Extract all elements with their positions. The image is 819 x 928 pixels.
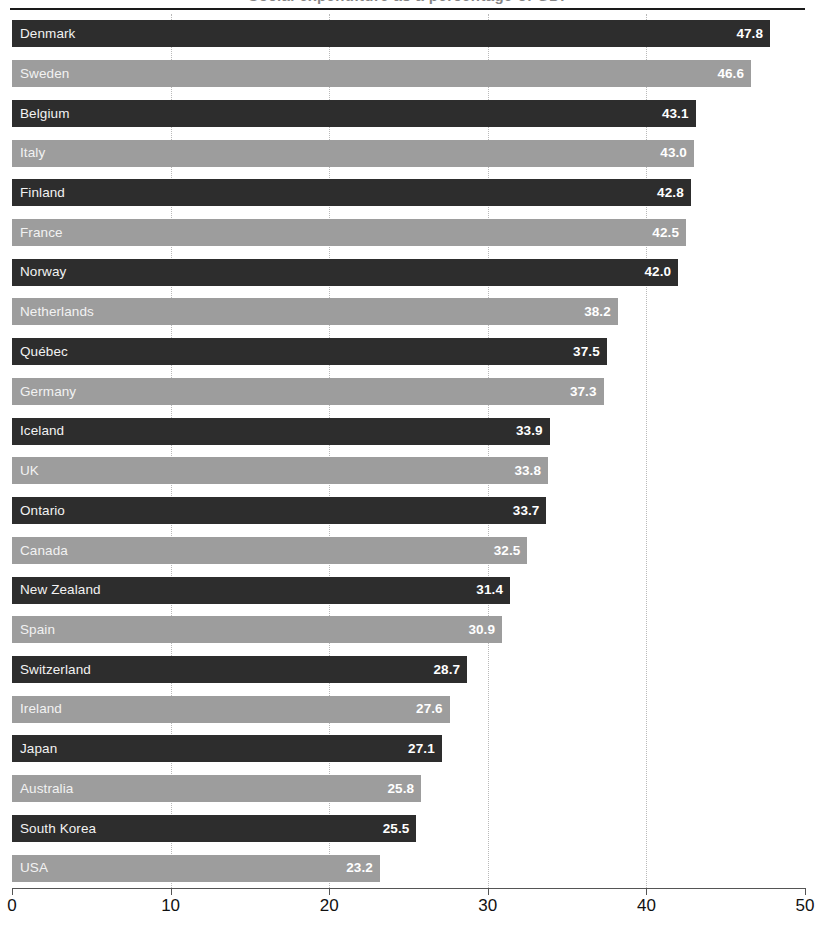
bar-row: Switzerland28.7 (12, 656, 805, 683)
bar-value-label: 31.4 (476, 583, 503, 597)
bar-category-label: Finland (20, 186, 65, 200)
bar-row: Denmark47.8 (12, 20, 805, 47)
bar[interactable]: Québec37.5 (12, 338, 607, 365)
axis-tick-label: 0 (7, 896, 16, 916)
bar-value-label: 33.7 (513, 504, 540, 518)
bar-value-label: 28.7 (433, 663, 460, 677)
bar-category-label: Norway (20, 265, 66, 279)
bar[interactable]: Norway42.0 (12, 259, 678, 286)
bar-value-label: 43.1 (662, 107, 689, 121)
bar-value-label: 46.6 (717, 67, 744, 81)
bar-category-label: Ontario (20, 504, 65, 518)
bar[interactable]: Canada32.5 (12, 537, 527, 564)
bar-category-label: Ireland (20, 702, 62, 716)
bar-row: Italy43.0 (12, 140, 805, 167)
bar-row: Norway42.0 (12, 259, 805, 286)
bar-category-label: Denmark (20, 27, 75, 41)
bar-row: France42.5 (12, 219, 805, 246)
bar-category-label: Italy (20, 146, 45, 160)
bar-value-label: 47.8 (736, 27, 763, 41)
bar-value-label: 23.2 (346, 861, 373, 875)
bar[interactable]: Iceland33.9 (12, 418, 550, 445)
bar[interactable]: USA23.2 (12, 855, 380, 882)
axis-tick-label: 40 (637, 896, 656, 916)
bar-row: Québec37.5 (12, 338, 805, 365)
plot-area: Denmark47.8Sweden46.6Belgium43.1Italy43.… (12, 14, 805, 888)
bar-category-label: Germany (20, 385, 76, 399)
bar-value-label: 42.8 (657, 186, 684, 200)
bar-value-label: 38.2 (584, 305, 611, 319)
bar-category-label: USA (20, 861, 48, 875)
bar-category-label: Belgium (20, 107, 69, 121)
bar[interactable]: Australia25.8 (12, 775, 421, 802)
axis-tick (12, 888, 13, 895)
bar-row: Japan27.1 (12, 735, 805, 762)
axis-tick-label: 50 (796, 896, 815, 916)
x-axis-ticks (12, 888, 805, 896)
bar[interactable]: Spain30.9 (12, 616, 502, 643)
bar[interactable]: Germany37.3 (12, 378, 604, 405)
bar-value-label: 43.0 (660, 146, 687, 160)
axis-tick (329, 888, 330, 895)
bar-category-label: Canada (20, 544, 68, 558)
bar-value-label: 37.3 (570, 385, 597, 399)
bar-row: New Zealand31.4 (12, 577, 805, 604)
bar[interactable]: Ontario33.7 (12, 497, 546, 524)
bar[interactable]: South Korea25.5 (12, 815, 416, 842)
bar-row: Australia25.8 (12, 775, 805, 802)
bar-row: Ontario33.7 (12, 497, 805, 524)
axis-tick (488, 888, 489, 895)
bar[interactable]: Japan27.1 (12, 735, 442, 762)
axis-tick (805, 888, 806, 895)
bar-row: Finland42.8 (12, 179, 805, 206)
axis-tick (646, 888, 647, 895)
bar-row: Iceland33.9 (12, 418, 805, 445)
bar-value-label: 27.1 (408, 742, 435, 756)
bar-value-label: 33.9 (516, 424, 543, 438)
bar[interactable]: Denmark47.8 (12, 20, 770, 47)
bar-category-label: Japan (20, 742, 57, 756)
bar[interactable]: Ireland27.6 (12, 696, 450, 723)
bar-category-label: Spain (20, 623, 55, 637)
bar-value-label: 42.5 (652, 226, 679, 240)
bar[interactable]: Sweden46.6 (12, 60, 751, 87)
bar-category-label: Québec (20, 345, 68, 359)
bar[interactable]: Italy43.0 (12, 140, 694, 167)
bar-category-label: Iceland (20, 424, 64, 438)
bar-row: USA23.2 (12, 855, 805, 882)
bar-value-label: 32.5 (494, 544, 521, 558)
bar-category-label: Switzerland (20, 663, 91, 677)
bar-value-label: 37.5 (573, 345, 600, 359)
bar-row: UK33.8 (12, 457, 805, 484)
bar-value-label: 25.8 (388, 782, 415, 796)
bar[interactable]: UK33.8 (12, 457, 548, 484)
axis-tick-label: 10 (161, 896, 180, 916)
bar-category-label: France (20, 226, 63, 240)
bar-value-label: 42.0 (644, 265, 671, 279)
chart-page: Social expenditure as a percentage of GD… (0, 0, 819, 928)
bar-row: Netherlands38.2 (12, 298, 805, 325)
bar[interactable]: France42.5 (12, 219, 686, 246)
bar[interactable]: Belgium43.1 (12, 100, 696, 127)
bar-row: Germany37.3 (12, 378, 805, 405)
bar[interactable]: Finland42.8 (12, 179, 691, 206)
axis-tick-label: 20 (320, 896, 339, 916)
axis-tick (171, 888, 172, 895)
bar[interactable]: Switzerland28.7 (12, 656, 467, 683)
bar-rows: Denmark47.8Sweden46.6Belgium43.1Italy43.… (12, 14, 805, 888)
bar[interactable]: New Zealand31.4 (12, 577, 510, 604)
bar-row: Canada32.5 (12, 537, 805, 564)
bar-category-label: Netherlands (20, 305, 94, 319)
bar-category-label: Sweden (20, 67, 69, 81)
bar[interactable]: Netherlands38.2 (12, 298, 618, 325)
chart-title: Social expenditure as a percentage of GD… (0, 0, 819, 4)
top-divider-rule (10, 8, 805, 10)
bar-category-label: Australia (20, 782, 73, 796)
bar-value-label: 25.5 (383, 822, 410, 836)
bar-row: Belgium43.1 (12, 100, 805, 127)
bar-row: Spain30.9 (12, 616, 805, 643)
x-axis-tick-labels: 01020304050 (12, 896, 805, 926)
bar-row: Ireland27.6 (12, 696, 805, 723)
axis-tick-label: 30 (478, 896, 497, 916)
bar-row: Sweden46.6 (12, 60, 805, 87)
